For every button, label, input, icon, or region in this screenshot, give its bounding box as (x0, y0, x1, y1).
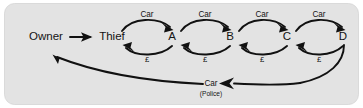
edge-label-car-thief-a: Car (140, 10, 153, 19)
panel-background (5, 4, 359, 105)
edge-label-car-a-b: Car (198, 10, 211, 19)
diagram-canvas: Owner Thief A B C D Car Car Car Car £ £ … (0, 0, 363, 108)
edge-label-car-c-d: Car (312, 10, 325, 19)
figure-root: Owner Thief A B C D Car Car Car Car £ £ … (0, 0, 363, 108)
node-label-thief: Thief (99, 30, 125, 42)
node-label-b: B (226, 30, 234, 42)
node-label-d: D (339, 30, 347, 42)
node-label-a: A (168, 30, 176, 42)
edge-label-recovery-police: (Police) (200, 90, 222, 98)
node-label-c: C (283, 30, 291, 42)
node-label-owner: Owner (29, 30, 63, 42)
edge-label-car-b-c: Car (255, 10, 268, 19)
edge-label-recovery-car: Car (204, 79, 217, 88)
